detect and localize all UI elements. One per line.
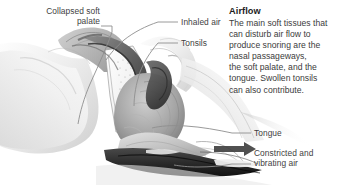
panel-heading: Airflow — [229, 5, 337, 17]
face-soft-tissue — [0, 42, 99, 153]
label-constricted-and-vibrating-air: Constricted and vibrating air — [254, 148, 334, 168]
label-tongue: Tongue — [254, 128, 324, 138]
airflow-description-panel: Airflow The main soft tissues that can d… — [229, 5, 337, 96]
panel-body-text: The main soft tissues that can disturb a… — [229, 18, 337, 96]
illustration-figure: Collapsed soft palate Inhaled air Tonsil… — [0, 0, 339, 187]
label-collapsed-soft-palate: Collapsed soft palate — [4, 6, 100, 26]
